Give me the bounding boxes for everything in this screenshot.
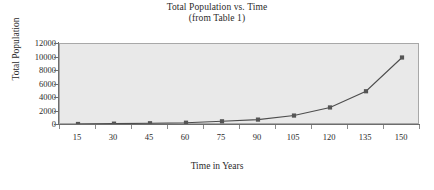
x-axis-tick xyxy=(203,125,204,129)
data-point-marker xyxy=(364,89,368,93)
x-axis-tick-labels: 153045607590105120135150 xyxy=(59,131,419,143)
y-axis-tick-label: 6000 xyxy=(16,80,56,88)
y-axis-tick-labels: 020004000600080001000012000 xyxy=(16,43,56,124)
x-axis-tick xyxy=(347,125,348,129)
y-axis-tick-label: 8000 xyxy=(16,66,56,74)
y-axis-tick-label: 10000 xyxy=(16,53,56,61)
x-axis-tick xyxy=(59,125,60,129)
x-axis-tick-label: 45 xyxy=(134,131,164,143)
x-axis-tick xyxy=(95,125,96,129)
y-axis-tick-label: 2000 xyxy=(16,107,56,115)
x-axis-tick-label: 90 xyxy=(242,131,272,143)
chart-container: Total Population vs. Time (from Table 1)… xyxy=(0,0,434,190)
x-axis-tick-label: 75 xyxy=(206,131,236,143)
x-axis-tick xyxy=(239,125,240,129)
series-plot xyxy=(60,44,420,125)
x-axis-tick-label: 150 xyxy=(386,131,416,143)
x-axis-tick-label: 60 xyxy=(170,131,200,143)
data-point-marker xyxy=(220,119,224,123)
y-axis-tick-label: 12000 xyxy=(16,39,56,47)
series-line xyxy=(78,58,402,124)
x-axis-tick-label: 120 xyxy=(314,131,344,143)
x-axis-tick xyxy=(383,125,384,129)
data-point-marker xyxy=(292,113,296,117)
y-axis-tick-label: 0 xyxy=(16,120,56,128)
x-axis-title: Time in Years xyxy=(0,160,434,172)
x-axis-tick xyxy=(275,125,276,129)
x-axis-tick xyxy=(311,125,312,129)
x-axis-tick xyxy=(419,125,420,129)
x-axis-tick-label: 30 xyxy=(98,131,128,143)
x-axis-tick-label: 135 xyxy=(350,131,380,143)
chart-title: Total Population vs. Time xyxy=(0,2,434,13)
x-axis-tick-label: 15 xyxy=(62,131,92,143)
chart-subtitle: (from Table 1) xyxy=(0,13,434,24)
chart-title-block: Total Population vs. Time (from Table 1) xyxy=(0,2,434,24)
plot-area xyxy=(59,43,419,124)
data-point-marker xyxy=(328,105,332,109)
data-point-marker xyxy=(256,118,260,122)
x-axis-tick xyxy=(167,125,168,129)
x-axis-tick-label: 105 xyxy=(278,131,308,143)
x-axis-tick xyxy=(131,125,132,129)
data-point-marker xyxy=(400,55,404,59)
y-axis-tick-label: 4000 xyxy=(16,93,56,101)
